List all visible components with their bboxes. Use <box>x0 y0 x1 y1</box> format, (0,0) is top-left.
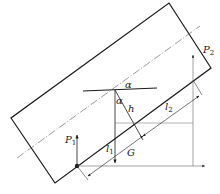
inclined-body-force-diagram: α α h P1 P2 l1 l2 G <box>0 0 220 194</box>
extension-line-right <box>193 80 202 95</box>
inclined-body-outline <box>11 3 211 183</box>
extension-line-left <box>77 166 88 180</box>
label-l2: l2 <box>165 101 173 114</box>
label-p2: P2 <box>202 44 214 57</box>
horizontal-reference-line <box>83 88 157 91</box>
label-alpha-top: α <box>125 79 132 90</box>
l2-dimension-line <box>143 96 199 136</box>
label-g: G <box>127 147 135 158</box>
label-alpha-vertical: α <box>116 95 123 106</box>
centerline <box>17 26 200 158</box>
label-p1: P1 <box>64 134 76 147</box>
label-h: h <box>128 103 134 114</box>
label-l1: l1 <box>106 143 114 156</box>
